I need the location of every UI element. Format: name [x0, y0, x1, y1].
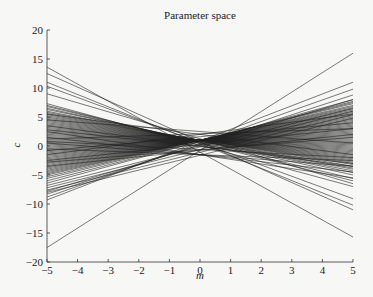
y-tick-label: 5 — [38, 111, 44, 123]
y-tick-label: 15 — [32, 53, 44, 65]
x-tick-label: 3 — [289, 264, 295, 276]
x-tick-label: −3 — [102, 264, 114, 276]
x-tick-label: 4 — [320, 264, 326, 276]
y-axis-label: c — [10, 143, 22, 148]
y-tick-label: −5 — [31, 169, 43, 181]
y-tick-label: 20 — [32, 24, 44, 36]
x-tick-label: 2 — [258, 264, 264, 276]
y-tick-label: 10 — [32, 82, 44, 94]
parameter-lines — [47, 53, 353, 247]
x-tick-label: −1 — [164, 264, 176, 276]
x-tick-label: 1 — [228, 264, 234, 276]
y-tick-label: −20 — [26, 256, 44, 268]
x-tick-label: 5 — [350, 264, 356, 276]
param-line — [47, 100, 353, 184]
chart-title: Parameter space — [0, 9, 373, 21]
y-tick-label: 0 — [38, 140, 44, 152]
y-tick-label: −10 — [26, 198, 44, 210]
x-axis-label: m — [196, 269, 204, 281]
x-tick-label: −2 — [133, 264, 145, 276]
chart-plot: −5−4−3−2−1012345−20−15−10−505101520 — [0, 0, 373, 297]
y-tick-label: −15 — [26, 227, 44, 239]
x-tick-label: −4 — [72, 264, 84, 276]
